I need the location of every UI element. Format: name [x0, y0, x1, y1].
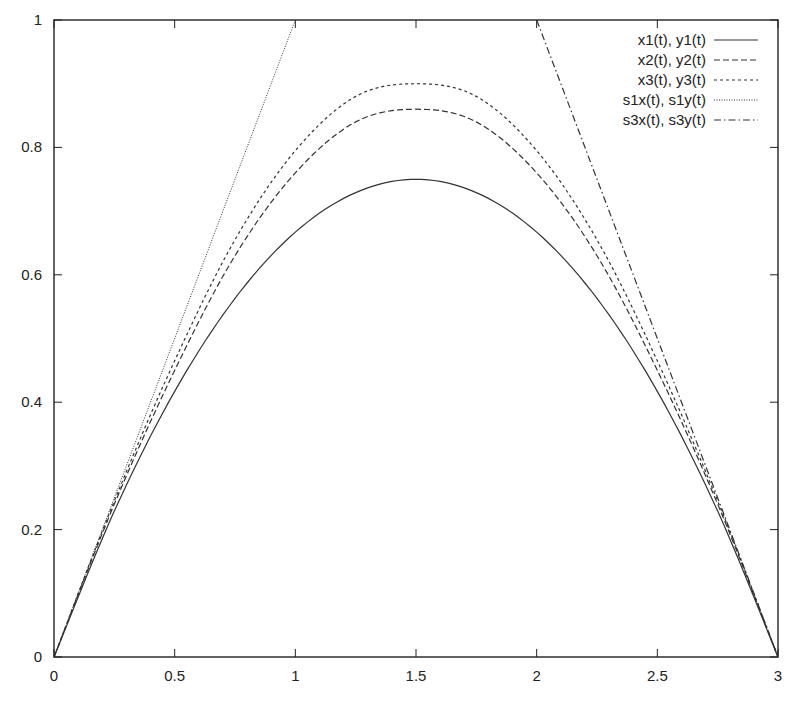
x-tick-label: 0: [50, 667, 58, 684]
series-line-3: [54, 84, 778, 657]
y-tick-label: 1: [34, 11, 42, 28]
x-tick-label: 3: [774, 667, 782, 684]
series-line-1: [54, 179, 778, 657]
x-tick-label: 2: [532, 667, 540, 684]
legend-label: x1(t), y1(t): [638, 31, 706, 48]
legend-label: x3(t), y3(t): [638, 71, 706, 88]
legend-label: s3x(t), s3y(t): [623, 111, 706, 128]
x-tick-label: 0.5: [164, 667, 185, 684]
legend: x1(t), y1(t)x2(t), y2(t)x3(t), y3(t)s1x(…: [623, 31, 758, 128]
y-tick-label: 0.6: [21, 266, 42, 283]
y-tick-label: 0: [34, 648, 42, 665]
y-axis: 00.20.40.60.81: [21, 11, 778, 665]
x-tick-label: 1: [291, 667, 299, 684]
chart-canvas: 00.511.522.53 00.20.40.60.81 x1(t), y1(t…: [0, 0, 802, 707]
legend-label: s1x(t), s1y(t): [623, 91, 706, 108]
x-tick-label: 1.5: [406, 667, 427, 684]
x-tick-label: 2.5: [647, 667, 668, 684]
legend-label: x2(t), y2(t): [638, 51, 706, 68]
y-tick-label: 0.2: [21, 521, 42, 538]
y-tick-label: 0.8: [21, 138, 42, 155]
series-line-2: [54, 109, 778, 657]
y-tick-label: 0.4: [21, 393, 42, 410]
